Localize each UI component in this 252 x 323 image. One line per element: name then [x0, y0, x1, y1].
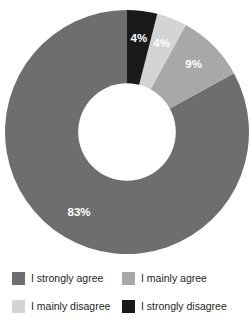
legend-item-mainly-disagree[interactable]: I mainly disagree — [12, 292, 122, 320]
legend-swatch-mainly-agree — [122, 272, 135, 285]
legend-swatch-mainly-disagree — [12, 300, 25, 313]
legend-item-strongly-disagree[interactable]: I strongly disagree — [122, 292, 252, 320]
legend-item-strongly-agree[interactable]: I strongly agree — [12, 264, 122, 292]
donut-plot-area: 83%9%4%4% — [0, 0, 252, 264]
slice-data-label: 83% — [68, 206, 91, 218]
donut-chart: 83%9%4%4% I strongly agree I mainly agre… — [0, 0, 252, 323]
donut-svg: 83%9%4%4% — [0, 0, 252, 264]
legend-label-strongly-disagree: I strongly disagree — [141, 301, 227, 312]
legend-label-mainly-disagree: I mainly disagree — [31, 301, 110, 312]
slice-data-label: 4% — [130, 32, 147, 44]
legend-swatch-strongly-disagree — [122, 300, 135, 313]
slice-data-label: 4% — [153, 37, 170, 49]
legend-item-mainly-agree[interactable]: I mainly agree — [122, 264, 252, 292]
donut-hole — [78, 83, 176, 181]
slice-data-label: 9% — [185, 58, 202, 70]
legend-swatch-strongly-agree — [12, 272, 25, 285]
legend-label-strongly-agree: I strongly agree — [31, 273, 103, 284]
legend-label-mainly-agree: I mainly agree — [141, 273, 207, 284]
chart-legend: I strongly agree I mainly agree I mainly… — [0, 264, 252, 323]
